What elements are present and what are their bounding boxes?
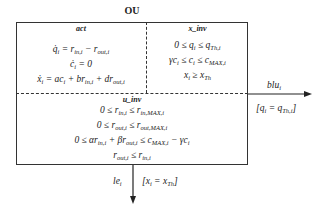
blu-transition-label: blui	[267, 80, 281, 91]
le-transition-label: lei	[113, 176, 122, 187]
le-guard-label: [xi = xTh]	[142, 176, 178, 187]
right-arrow-icon	[304, 91, 312, 97]
down-arrow-icon	[130, 196, 136, 204]
blu-guard-label: [qi = qTh,i]	[256, 103, 296, 114]
